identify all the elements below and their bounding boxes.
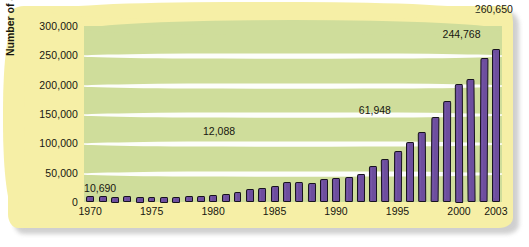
bar (357, 174, 365, 202)
bar (320, 179, 328, 202)
bar-series (84, 26, 502, 202)
x-axis-tick-label: 1975 (140, 205, 163, 217)
bar (369, 166, 377, 202)
bar (246, 189, 254, 202)
value-annotation: 244,768 (443, 28, 481, 40)
y-axis-tick-label: 250,000 (10, 49, 78, 61)
y-axis-tick-label: 150,000 (10, 108, 78, 120)
bar (381, 159, 389, 202)
x-axis-tick-label: 1995 (386, 205, 409, 217)
bar (209, 195, 217, 202)
bar (123, 196, 131, 202)
y-axis-tick-label: 0 (10, 196, 78, 208)
y-axis-tick-label: 200,000 (10, 79, 78, 91)
bar (172, 197, 180, 203)
value-annotation: 10,690 (84, 182, 116, 194)
bar (308, 183, 316, 202)
x-axis-tick-label: 1970 (78, 205, 101, 217)
chart-screenshot: Number of accounts 050,000100,000150,000… (0, 0, 529, 247)
bar (295, 182, 303, 202)
bar (443, 101, 451, 202)
bar (197, 196, 205, 202)
bar (394, 151, 402, 202)
x-axis-tick-label: 1990 (324, 205, 347, 217)
x-axis-tick-label: 1985 (263, 205, 286, 217)
bar (111, 197, 119, 203)
bar (222, 194, 230, 202)
value-annotation: 12,088 (203, 125, 235, 137)
y-axis-tick-label: 300,000 (10, 20, 78, 32)
value-annotation: 260,650 (475, 3, 513, 15)
y-axis-tick-label: 50,000 (10, 167, 78, 179)
x-axis-tick-label: 2000 (447, 205, 470, 217)
bar (148, 197, 156, 203)
bar (332, 178, 340, 202)
value-annotation: 61,948 (359, 104, 391, 116)
bar (234, 192, 242, 202)
bar (418, 132, 426, 202)
y-axis-tick-label: 100,000 (10, 137, 78, 149)
bar (455, 84, 463, 203)
x-axis-tick-label: 2003 (484, 205, 507, 217)
bar (283, 182, 291, 202)
bar (344, 177, 352, 202)
bar (430, 117, 438, 202)
bar (185, 196, 193, 202)
chart-card: Number of accounts 050,000100,000150,000… (8, 6, 513, 228)
bar (258, 188, 266, 202)
x-axis-tick-label: 1980 (201, 205, 224, 217)
bar (479, 58, 488, 202)
bar (135, 197, 143, 203)
bar (160, 197, 168, 203)
bar (86, 196, 94, 202)
bar (467, 79, 476, 202)
bar (492, 49, 500, 202)
bar (406, 142, 414, 202)
bar (99, 196, 107, 202)
bar (271, 186, 279, 202)
